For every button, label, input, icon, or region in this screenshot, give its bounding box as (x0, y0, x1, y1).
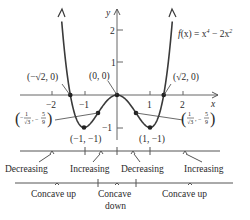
svg-text:1: 1 (188, 111, 191, 117)
function-graph-diagram: −2 −1 1 2 x 2 1 −1 y f(x) = x4 − 2x2 (−√… (0, 0, 250, 220)
x-tick-label: 1 (147, 100, 152, 110)
interval-concave-up-1: Concave up (31, 189, 76, 199)
svg-text:): ) (47, 110, 52, 128)
point-neg-min (82, 125, 87, 130)
svg-text:9: 9 (205, 119, 208, 125)
y-tick-label: 2 (110, 26, 115, 36)
equation-label: f(x) = x4 − 2x2 (178, 28, 232, 40)
x-tick-label: 2 (180, 100, 185, 110)
label-pos-root: (√2, 0) (173, 72, 199, 83)
svg-text:5: 5 (42, 111, 45, 117)
point-pos-min (148, 125, 153, 130)
curve-arrow-left-icon (58, 9, 65, 17)
label-origin: (0, 0) (89, 71, 110, 82)
label-pos-min: (1, −1) (139, 134, 165, 145)
svg-text:√3: √3 (24, 119, 30, 125)
x-axis-label: x (210, 99, 216, 109)
monotonicity-line (20, 147, 220, 162)
interval-increasing-1: Increasing (70, 164, 110, 174)
label-neg-min: (−1, −1) (70, 134, 101, 145)
y-tick-label: 1 (111, 58, 116, 68)
svg-text:√3: √3 (187, 119, 193, 125)
y-axis-label: y (105, 8, 111, 18)
label-neg-root: (−√2, 0) (27, 72, 58, 83)
interval-decreasing-1: Decreasing (5, 164, 48, 174)
curve-arrow-right-icon (169, 9, 176, 17)
interval-increasing-2: Increasing (184, 164, 224, 174)
x-tick-label: −2 (46, 100, 56, 110)
label-pos-inflection: ( 1 √3 , − 5 9 ) (181, 110, 215, 128)
x-tick-label: −1 (79, 100, 89, 110)
interval-decreasing-2: Decreasing (121, 164, 164, 174)
concavity-line (15, 179, 233, 187)
y-tick-label: −1 (102, 123, 112, 133)
interval-concave-down-2: down (105, 201, 126, 211)
svg-text:5: 5 (205, 111, 208, 117)
svg-text:, −: , − (32, 116, 39, 122)
svg-text:(: ( (181, 110, 186, 128)
interval-concave-down: Concave (98, 189, 131, 199)
label-neg-inflection: ( − 1 √3 , − 5 9 ) (15, 110, 52, 128)
y-ticks (117, 30, 123, 128)
svg-text:1: 1 (25, 111, 28, 117)
interval-concave-up-2: Concave up (162, 189, 207, 199)
svg-text:): ) (210, 110, 215, 128)
svg-text:9: 9 (42, 119, 45, 125)
svg-text:, −: , − (195, 116, 202, 122)
